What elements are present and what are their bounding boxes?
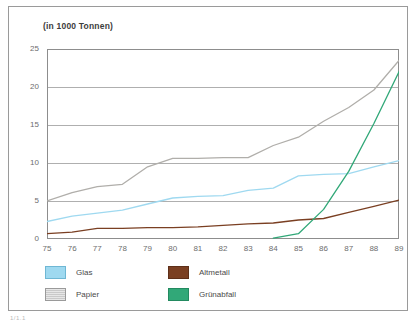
x-tick-label: 81 (187, 245, 209, 253)
chart-title: (in 1000 Tonnen) (43, 21, 113, 31)
legend-swatch-icon (45, 266, 66, 279)
x-tick-label: 78 (111, 245, 133, 253)
y-tick-label: 5 (15, 197, 39, 205)
legend-label: Altmetall (199, 268, 230, 277)
gridlines (47, 50, 399, 240)
plot-area (47, 49, 399, 239)
series-line-papier (47, 60, 399, 201)
x-tick-label: 79 (137, 245, 159, 253)
chart-legend: GlasPapierAltmetallGrünabfall (45, 266, 305, 310)
x-tick-label: 85 (287, 245, 309, 253)
x-tick-label: 87 (338, 245, 360, 253)
legend-label: Papier (76, 290, 99, 299)
y-tick-label: 20 (15, 83, 39, 91)
legend-label: Grünabfall (199, 290, 236, 299)
x-tick-label: 80 (162, 245, 184, 253)
series-line-grünabfall (273, 72, 399, 238)
series-line-altmetall (47, 200, 399, 234)
y-tick-label: 25 (15, 45, 39, 53)
x-tick-label: 84 (262, 245, 284, 253)
legend-label: Glas (76, 268, 92, 277)
chart-frame: (in 1000 Tonnen) 0510152025 757677787980… (8, 6, 408, 311)
x-tick-label: 83 (237, 245, 259, 253)
x-tick-label: 89 (388, 245, 410, 253)
x-tick-label: 82 (212, 245, 234, 253)
figure-caption: 1/1.1 (10, 315, 26, 321)
figure-root: (in 1000 Tonnen) 0510152025 757677787980… (0, 0, 417, 324)
x-tick-label: 76 (61, 245, 83, 253)
x-tick-label: 75 (36, 245, 58, 253)
legend-swatch-icon (168, 288, 189, 301)
data-series-layer (47, 60, 399, 238)
x-tick-label: 88 (363, 245, 385, 253)
y-tick-label: 10 (15, 159, 39, 167)
y-tick-label: 15 (15, 121, 39, 129)
plot-border (48, 50, 399, 239)
legend-swatch-icon (168, 266, 189, 279)
y-tick-label: 0 (15, 235, 39, 243)
x-tick-label: 77 (86, 245, 108, 253)
plot-svg (47, 49, 399, 239)
legend-swatch-icon (45, 288, 66, 301)
x-tick-label: 86 (313, 245, 335, 253)
